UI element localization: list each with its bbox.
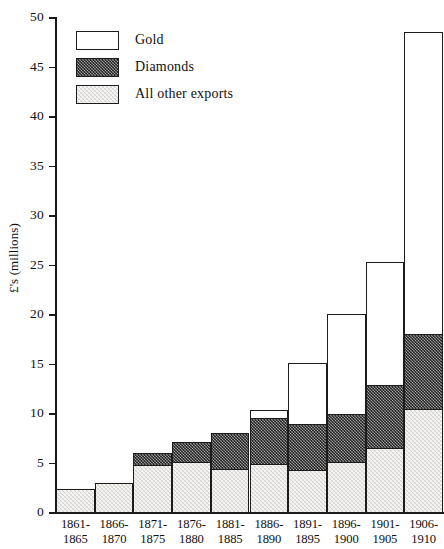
bar-1881-1885	[211, 434, 250, 513]
y-tick-label-5: 5	[0, 456, 44, 470]
bar-1861-1865	[56, 490, 95, 513]
bar-1871-1875	[133, 455, 172, 513]
x-label-1871-1875: 1871-1875	[133, 517, 172, 546]
x-label-line: 1886-	[250, 517, 289, 532]
y-tick-10	[49, 413, 56, 414]
bar-segment-gold-1901-1905	[366, 262, 405, 386]
x-label-line: 1880	[172, 532, 211, 547]
y-tick-label-35: 35	[0, 159, 44, 173]
legend-item-all-other-exports: All other exports	[76, 84, 326, 109]
bar-1896-1900	[327, 315, 366, 513]
y-tick-35	[49, 166, 56, 167]
bar-segment-gold-1891-1895	[288, 363, 327, 425]
x-label-line: 1901-	[366, 517, 405, 532]
x-label-line: 1870	[95, 532, 134, 547]
bar-segment-diamonds-1891-1895	[288, 424, 327, 472]
bar-1886-1890	[250, 411, 289, 513]
bar-segment-other-1901-1905	[366, 447, 405, 513]
legend-swatch-icon	[76, 58, 119, 77]
bar-segment-diamonds-1886-1890	[250, 418, 289, 465]
legend-label: Gold	[135, 32, 164, 48]
stacked-bar-chart: 05101520253035404550 £'s (millions) 1861…	[0, 0, 444, 549]
x-label-line: 1905	[366, 532, 405, 547]
x-label-line: 1896-	[327, 517, 366, 532]
y-tick-40	[49, 116, 56, 117]
x-label-line: 1866-	[95, 517, 134, 532]
bar-segment-other-1896-1900	[327, 461, 366, 513]
bar-segment-other-1861-1865	[56, 489, 95, 513]
y-tick-45	[49, 67, 56, 68]
bar-segment-other-1871-1875	[133, 465, 172, 513]
x-label-line: 1910	[404, 532, 443, 547]
bar-1901-1905	[366, 264, 405, 513]
bar-segment-diamonds-1876-1880	[172, 442, 211, 462]
bar-segment-other-1866-1870	[95, 483, 134, 513]
bar-segment-other-1886-1890	[250, 463, 289, 513]
y-tick-label-0: 0	[0, 505, 44, 519]
bar-segment-other-1906-1910	[404, 409, 443, 513]
bar-segment-diamonds-1871-1875	[133, 453, 172, 466]
legend-label: Diamonds	[135, 59, 194, 75]
bar-segment-diamonds-1881-1885	[211, 433, 250, 471]
bar-1891-1895	[288, 365, 327, 514]
bar-segment-other-1891-1895	[288, 470, 327, 513]
x-label-1866-1870: 1866-1870	[95, 517, 134, 546]
x-label-1881-1885: 1881-1885	[211, 517, 250, 546]
chart-legend: GoldDiamondsAll other exports	[76, 30, 326, 111]
x-label-line: 1861-	[56, 517, 95, 532]
x-label-1891-1895: 1891-1895	[288, 517, 327, 546]
bar-segment-gold-1906-1910	[404, 32, 443, 335]
x-label-line: 1906-	[404, 517, 443, 532]
y-tick-label-50: 50	[0, 10, 44, 24]
x-label-line: 1885	[211, 532, 250, 547]
x-label-line: 1876-	[172, 517, 211, 532]
x-label-line: 1900	[327, 532, 366, 547]
bar-segment-gold-1896-1900	[327, 314, 366, 415]
bar-1906-1910	[404, 33, 443, 513]
bar-segment-diamonds-1906-1910	[404, 334, 443, 411]
x-label-line: 1891-	[288, 517, 327, 532]
x-label-line: 1871-	[133, 517, 172, 532]
y-tick-30	[49, 215, 56, 216]
x-label-1906-1910: 1906-1910	[404, 517, 443, 546]
x-label-line: 1890	[250, 532, 289, 547]
y-tick-0	[49, 512, 56, 513]
y-tick-label-40: 40	[0, 109, 44, 123]
legend-swatch-icon	[76, 31, 119, 50]
bar-1876-1880	[172, 444, 211, 513]
bar-segment-other-1876-1880	[172, 461, 211, 513]
y-tick-label-45: 45	[0, 60, 44, 74]
legend-label: All other exports	[135, 86, 233, 102]
bar-segment-diamonds-1901-1905	[366, 385, 405, 449]
y-tick-20	[49, 314, 56, 315]
legend-item-diamonds: Diamonds	[76, 57, 326, 82]
bar-1866-1870	[95, 484, 134, 513]
x-label-line: 1895	[288, 532, 327, 547]
x-label-1886-1890: 1886-1890	[250, 517, 289, 546]
x-label-1861-1865: 1861-1865	[56, 517, 95, 546]
bar-segment-other-1881-1885	[211, 469, 250, 513]
y-tick-label-10: 10	[0, 406, 44, 420]
bar-segment-gold-1886-1890	[250, 410, 289, 419]
y-tick-5	[49, 463, 56, 464]
bar-segment-diamonds-1896-1900	[327, 414, 366, 463]
y-tick-label-15: 15	[0, 357, 44, 371]
x-label-line: 1875	[133, 532, 172, 547]
y-tick-50	[49, 17, 56, 18]
x-label-line: 1881-	[211, 517, 250, 532]
x-label-1901-1905: 1901-1905	[366, 517, 405, 546]
y-tick-15	[49, 364, 56, 365]
y-tick-25	[49, 265, 56, 266]
x-label-1876-1880: 1876-1880	[172, 517, 211, 546]
legend-item-gold: Gold	[76, 30, 326, 55]
y-axis-title: £'s (millions)	[6, 193, 22, 323]
x-label-line: 1865	[56, 532, 95, 547]
legend-swatch-icon	[76, 85, 119, 104]
x-label-1896-1900: 1896-1900	[327, 517, 366, 546]
